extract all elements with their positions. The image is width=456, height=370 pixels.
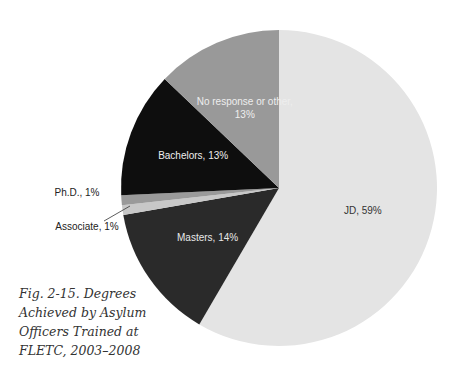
caption-line: Officers Trained at (19, 322, 149, 341)
data-label: No response or other, (197, 96, 293, 107)
figure-caption: Fig. 2-15. Degrees Achieved by Asylum Of… (19, 284, 149, 360)
caption-line: FLETC, 2003–2008 (19, 341, 149, 360)
data-label: Associate, 1% (55, 221, 118, 232)
caption-line: Fig. 2-15. Degrees (19, 284, 149, 303)
data-label: Bachelors, 13% (158, 150, 228, 161)
caption-line: Achieved by Asylum (19, 303, 149, 322)
data-label: JD, 59% (344, 205, 382, 216)
data-label: Masters, 14% (177, 232, 238, 243)
data-label: Ph.D., 1% (54, 187, 99, 198)
data-label: 13% (235, 109, 255, 120)
